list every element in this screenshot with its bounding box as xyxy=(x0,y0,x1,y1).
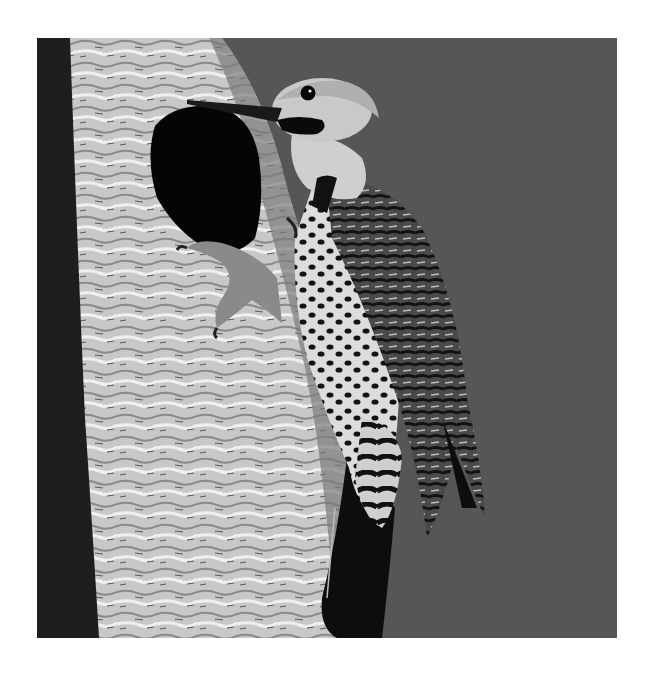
photograph xyxy=(37,38,617,638)
woodpecker-photo xyxy=(37,38,617,638)
bird-eye xyxy=(301,86,316,101)
